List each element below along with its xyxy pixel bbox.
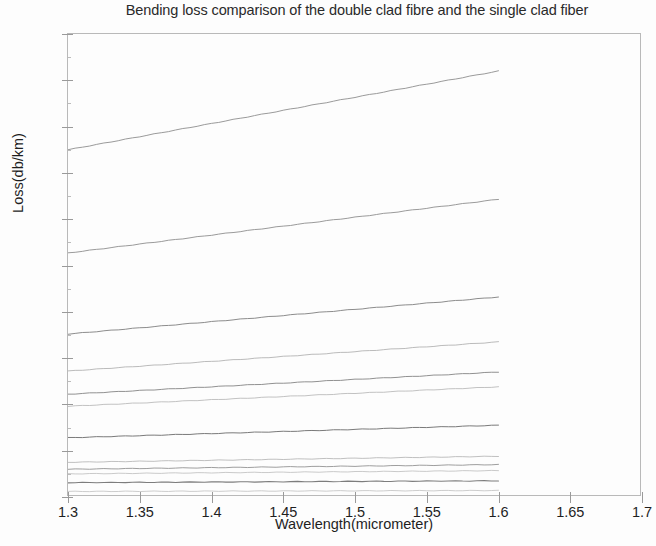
x-tick-1.45	[283, 497, 284, 503]
x-axis-tick-labels: 1.31.351.41.451.51.551.61.651.7	[68, 34, 642, 497]
x-tick-1.7	[642, 497, 643, 503]
x-tick-1.65	[570, 497, 571, 503]
x-tick-1.5	[355, 497, 356, 503]
chart-title: Bending loss comparison of the double cl…	[67, 2, 647, 18]
x-tick-1.3	[68, 497, 69, 503]
x-axis-title: Wavelength(micrometer)	[67, 516, 641, 532]
plot-area: 00.10.20.30.40.50.60.70.80.91 1.31.351.4…	[67, 33, 641, 496]
x-tick-1.6	[499, 497, 500, 503]
y-axis-title: Loss(db/km)	[10, 103, 26, 243]
x-tick-inner-1.7	[642, 492, 643, 497]
chart-figure: Bending loss comparison of the double cl…	[0, 0, 656, 546]
x-tick-1.4	[212, 497, 213, 503]
x-tick-1.55	[427, 497, 428, 503]
x-tick-1.35	[140, 497, 141, 503]
